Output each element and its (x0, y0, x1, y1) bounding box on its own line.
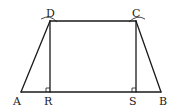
label-s: S (129, 95, 137, 108)
label-a: A (12, 95, 22, 108)
label-r: R (44, 95, 53, 108)
trapezium-diagram: D C A R S B (0, 0, 178, 111)
segment-bc (136, 21, 161, 92)
label-d: D (46, 7, 55, 20)
segment-ad (21, 21, 50, 92)
label-b: B (159, 95, 167, 108)
label-c: C (132, 7, 140, 20)
